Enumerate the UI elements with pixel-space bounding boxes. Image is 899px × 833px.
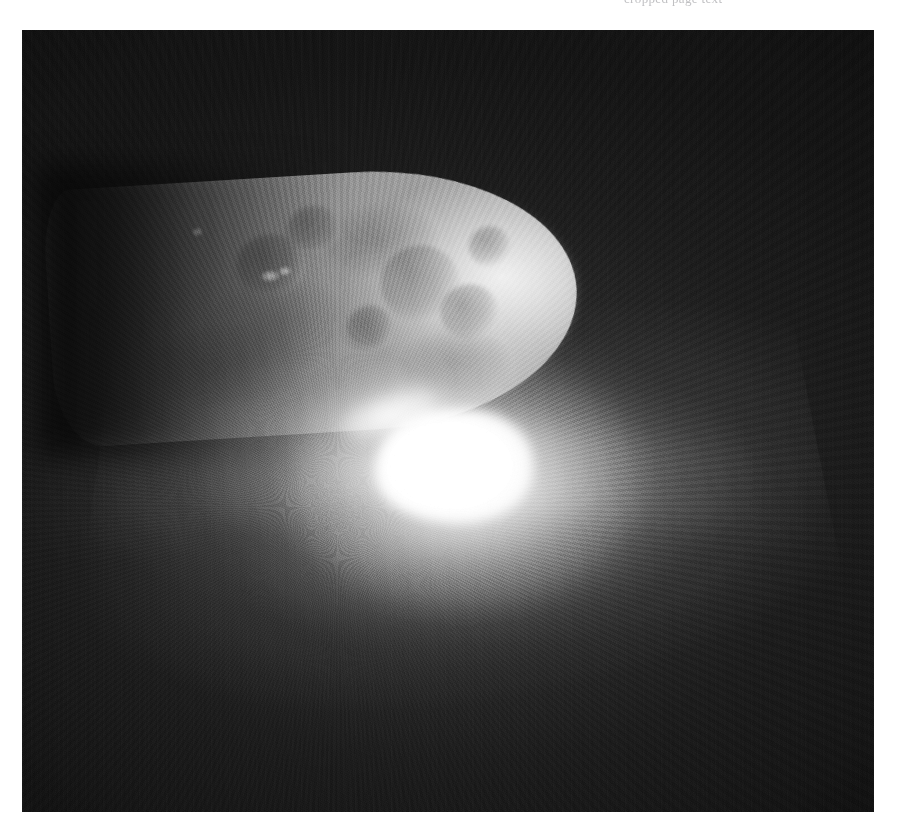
caption-strip: cropped page text [0, 0, 899, 7]
caption-text: cropped page text [624, 0, 722, 7]
crater-icon [467, 224, 512, 268]
crater-icon [345, 304, 395, 353]
impact-flash-saturated-core [393, 425, 512, 507]
comet-impact-photograph [22, 30, 874, 812]
scanned-page: cropped page text [0, 0, 899, 833]
